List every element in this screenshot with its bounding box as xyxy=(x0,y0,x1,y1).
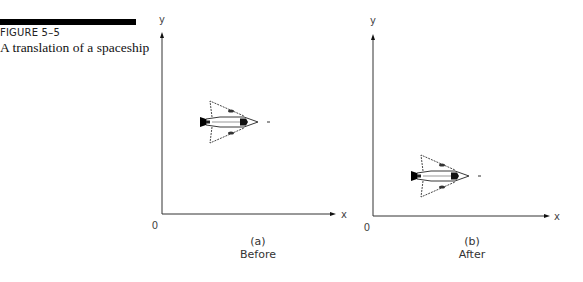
panel-b-caption-text: After xyxy=(432,248,512,261)
panel-b-origin-label: 0 xyxy=(364,222,370,233)
panel-a-origin-label: 0 xyxy=(152,220,158,231)
panel-b-caption-tag: (b) xyxy=(432,235,512,248)
panel-a-ship xyxy=(200,101,270,143)
panel-b-x-label: x xyxy=(554,211,560,222)
panel-a-x-label: x xyxy=(341,209,347,220)
panel-b-ship xyxy=(411,155,481,197)
panel-a-caption-text: Before xyxy=(218,248,298,261)
panel-b-y-label: y xyxy=(370,15,376,26)
panel-b-caption: (b) After xyxy=(432,235,512,261)
panel-a-y-label: y xyxy=(159,14,165,25)
panel-a-caption-tag: (a) xyxy=(218,235,298,248)
panel-a-caption: (a) Before xyxy=(218,235,298,261)
panel-b-axes xyxy=(371,34,550,218)
